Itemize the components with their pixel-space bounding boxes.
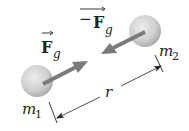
tick-line-m1 (49, 102, 57, 123)
force-label-fg: F g (41, 31, 61, 61)
m1-subscript: 1 (35, 108, 42, 121)
vector-arrow-icon (42, 31, 53, 35)
distance-label: r (105, 83, 113, 101)
mass-label-m2: m 2 (159, 42, 179, 63)
gravitation-diagram: r F g − F g m 1 m 2 (0, 0, 189, 131)
neg-fg-subscript: g (105, 23, 113, 37)
m2-subscript: 2 (172, 50, 179, 63)
neg-fg-symbol: F (93, 13, 105, 32)
force-label-neg-fg: − F g (79, 7, 113, 37)
fg-symbol: F (41, 38, 53, 57)
fg-subscript: g (53, 47, 61, 61)
distance-line-left (57, 97, 100, 118)
mass-m2-sphere (129, 15, 161, 47)
mass-label-m1: m 1 (22, 100, 42, 121)
distance-line-right (121, 66, 161, 86)
neg-fg-prefix: − (79, 10, 92, 28)
